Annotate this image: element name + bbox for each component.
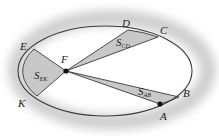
point-label-k: K <box>17 97 26 109</box>
point-label-c: C <box>160 24 168 36</box>
point-label-a: A <box>159 110 167 122</box>
kepler-ellipse-diagram: FABCDEKSABSCDSEK <box>0 0 219 136</box>
focus-point <box>63 68 68 73</box>
focus-label: F <box>60 53 68 65</box>
diagram-canvas: FABCDEKSABSCDSEK <box>0 0 219 136</box>
point-label-b: B <box>183 87 190 99</box>
planet-point-a <box>157 101 162 106</box>
point-label-d: D <box>121 17 130 29</box>
point-label-e: E <box>19 40 27 52</box>
elliptical-orbit <box>18 26 192 116</box>
